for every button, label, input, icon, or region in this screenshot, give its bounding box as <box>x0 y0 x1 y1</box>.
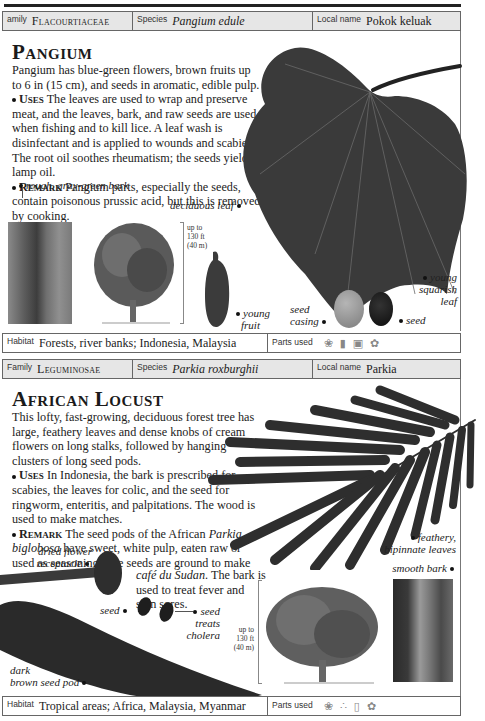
local-name-label: Local name <box>317 14 361 24</box>
bark-icon: ▮ <box>340 337 346 350</box>
bark-caption: rough, gray-green bark <box>16 179 129 192</box>
local-name-cell: Local name Parkia <box>313 360 460 378</box>
pangium-uses: The leaves are used to wrap and preserve… <box>12 92 256 179</box>
family-label: Family <box>7 362 32 372</box>
pointer-dot-icon <box>399 319 403 323</box>
deciduous-leaf-caption: deciduous leaf <box>170 199 244 212</box>
pointer-dot-icon <box>237 204 241 208</box>
locust-bark-image <box>393 579 453 682</box>
parts-used-label: Parts used <box>272 337 313 347</box>
pointer-dot-icon <box>450 567 454 571</box>
top-rule <box>4 4 461 7</box>
pangium-fruit-image <box>203 250 231 328</box>
habitat-value: Forests, river banks; Indonesia, Malaysi… <box>39 336 236 351</box>
seed-pod-caption: dark brown seed pod <box>10 664 89 688</box>
pangium-title: Pangium <box>12 40 93 65</box>
parts-used-label: Parts used <box>272 700 313 710</box>
family-label: amily <box>7 14 27 24</box>
habitat-label: Habitat <box>7 699 34 709</box>
pointer-dot-icon <box>82 681 86 685</box>
seed-casing-image <box>334 290 364 328</box>
species-value: Parkia roxburghii <box>172 362 258 377</box>
seed-image <box>369 292 393 326</box>
locust-header-bar: Family Leguminosae Species Parkia roxbur… <box>2 359 461 379</box>
habitat-cell: Habitat Forests, river banks; Indonesia,… <box>3 334 268 352</box>
uses-label: Uses <box>19 92 44 106</box>
young-fruit-caption: young fruit <box>233 307 270 331</box>
bark-icon: ▯ <box>354 700 360 713</box>
flower-icon: ✿ <box>367 700 376 713</box>
habitat-label: Habitat <box>7 336 34 346</box>
pangium-bark-image <box>8 222 72 324</box>
family-value: Flacourtiaceae <box>32 14 110 29</box>
family-cell: amily Flacourtiaceae <box>3 12 133 30</box>
parts-used-icons: ❀ ∴ ▯ ✿ <box>324 700 376 713</box>
habitat-cell: Habitat Tropical areas; Africa, Malaysia… <box>3 697 268 715</box>
bullet-icon <box>12 475 16 479</box>
seed-pod-image <box>0 595 265 705</box>
bark-leader <box>22 186 23 198</box>
bullet-icon <box>12 98 16 102</box>
local-name-value: Parkia <box>366 362 397 377</box>
species-label: Species <box>137 362 167 372</box>
bullet-icon <box>12 533 16 537</box>
pangium-intro: Pangium has blue-green flowers, brown fr… <box>12 63 259 92</box>
seed-caption: seed <box>396 314 426 327</box>
species-label: Species <box>137 14 167 24</box>
parts-used-cell: Parts used ❀ ∴ ▯ ✿ <box>268 697 460 715</box>
young-squarish-leaf-caption: young squarish leaf <box>412 271 457 307</box>
family-cell: Family Leguminosae <box>3 360 133 378</box>
leaf-icon: ❀ <box>324 700 333 713</box>
habitat-value: Tropical areas; Africa, Malaysia, Myanma… <box>39 699 246 714</box>
species-cell: Species Parkia roxburghii <box>133 360 313 378</box>
leaf-icon: ❀ <box>324 337 333 350</box>
local-name-label: Local name <box>317 362 361 372</box>
parts-used-cell: Parts used ❀ ▮ ▣ ✿ <box>268 334 460 352</box>
locust-tree-image <box>264 582 384 684</box>
locust-title: African Locust <box>12 387 163 412</box>
pointer-dot-icon <box>236 312 240 316</box>
height-bracket <box>180 222 184 324</box>
cafe-du-sudan: café du Sudan <box>136 568 205 582</box>
seed-casing-caption: seed casing <box>290 303 329 327</box>
smooth-bark-caption: smooth bark <box>385 562 457 575</box>
locust-remark-1: The seed pods of the African <box>65 527 205 541</box>
flower-icon: ✿ <box>370 337 379 350</box>
family-value: Leguminosae <box>37 362 101 377</box>
remark-label: Remark <box>19 527 62 541</box>
pointer-dot-icon <box>322 320 326 324</box>
pangium-footer-bar: Habitat Forests, river banks; Indonesia,… <box>2 333 461 353</box>
uses-label: Uses <box>19 468 44 482</box>
locust-footer-bar: Habitat Tropical areas; Africa, Malaysia… <box>2 696 461 716</box>
parts-used-icons: ❀ ▮ ▣ ✿ <box>324 337 379 350</box>
pangium-tree-image <box>92 220 177 324</box>
seed-icon: ∴ <box>340 700 347 713</box>
seed-icon: ▣ <box>353 337 363 350</box>
pointer-dot-icon <box>411 536 415 540</box>
pangium-height-note: up to 130 ft (40 m) <box>187 223 207 250</box>
pointer-dot-icon <box>423 276 427 280</box>
feathery-leaves-caption: feathery, bipinnate leaves <box>380 531 456 555</box>
